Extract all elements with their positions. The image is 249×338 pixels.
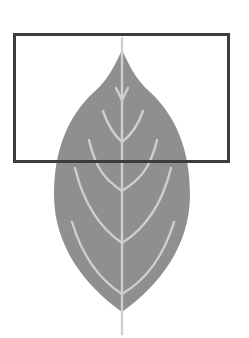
leaf-diagram	[0, 0, 249, 338]
